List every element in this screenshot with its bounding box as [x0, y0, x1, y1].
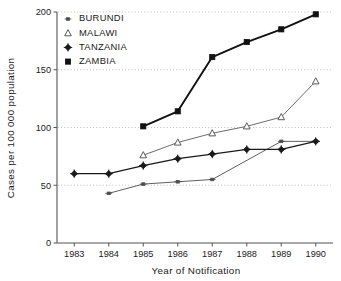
- y-axis-ticks: 050100150200: [36, 7, 57, 248]
- legend-malawi-marker-triangle: [65, 30, 72, 36]
- y-tick-label-50: 50: [41, 181, 51, 191]
- chart-figure: 050100150200 198319841985198619871988198…: [0, 0, 341, 281]
- series-tanzania-pt6-marker-diamond: [278, 146, 284, 152]
- y-tick-label-0: 0: [46, 238, 51, 248]
- series-tanzania-pt7-marker-diamond: [313, 138, 319, 144]
- series-zambia: [141, 12, 319, 129]
- series-burundi-pt1-marker-dash: [142, 183, 145, 186]
- legend-item-malawi[interactable]: MALAWI: [65, 27, 118, 38]
- series-tanzania-pt5-marker-diamond: [244, 146, 250, 152]
- line-chart: 050100150200 198319841985198619871988198…: [0, 0, 341, 281]
- series-zambia-pt5-marker-square: [313, 12, 318, 17]
- series-burundi-pt4-marker-dash: [280, 140, 283, 143]
- legend-label-malawi: MALAWI: [79, 27, 117, 38]
- y-tick-label-100: 100: [36, 123, 51, 133]
- series-line-zambia: [143, 14, 316, 126]
- y-tick-label-200: 200: [36, 7, 51, 17]
- series-tanzania-pt0-marker-diamond: [71, 171, 77, 177]
- gridlines-group: [58, 12, 333, 185]
- series-burundi-pt3-marker-dash: [211, 178, 214, 181]
- x-tick-label-1990: 1990: [306, 249, 326, 259]
- x-axis-ticks: 19831984198519861987198819891990: [64, 243, 326, 259]
- legend-label-tanzania: TANZANIA: [79, 41, 128, 52]
- x-tick-label-1987: 1987: [202, 249, 222, 259]
- x-tick-label-1984: 1984: [99, 249, 119, 259]
- series-malawi: [140, 78, 319, 158]
- series-burundi-pt2-marker-dash: [176, 180, 179, 183]
- series-zambia-pt4-marker-square: [279, 27, 284, 32]
- series-line-tanzania: [74, 141, 316, 173]
- x-tick-label-1983: 1983: [64, 249, 84, 259]
- legend-item-tanzania[interactable]: TANZANIA: [64, 41, 128, 52]
- series-zambia-pt3-marker-square: [244, 39, 249, 44]
- series-tanzania-pt1-marker-diamond: [106, 171, 112, 177]
- legend-item-burundi[interactable]: BURUNDI: [65, 12, 124, 23]
- series-line-malawi: [143, 81, 316, 155]
- series-tanzania-pt4-marker-diamond: [209, 151, 215, 157]
- x-tick-label-1989: 1989: [271, 249, 291, 259]
- y-tick-label-150: 150: [36, 65, 51, 75]
- y-axis-title: Cases per 100 000 population: [5, 58, 16, 199]
- x-tick-label-1988: 1988: [237, 249, 257, 259]
- legend-zambia-marker-square: [65, 59, 70, 64]
- legend-label-burundi: BURUNDI: [79, 12, 124, 23]
- series-zambia-pt0-marker-square: [141, 124, 146, 129]
- series-tanzania-pt3-marker-diamond: [175, 155, 181, 161]
- legend-tanzania-marker-diamond: [65, 44, 71, 50]
- x-tick-label-1985: 1985: [133, 249, 153, 259]
- series-zambia-pt2-marker-square: [210, 54, 215, 59]
- x-axis-title: Year of Notification: [152, 265, 241, 276]
- series-burundi-pt0-marker-dash: [107, 192, 110, 195]
- series-tanzania: [70, 137, 320, 178]
- data-series-group: [70, 12, 320, 195]
- legend-label-zambia: ZAMBIA: [79, 55, 116, 66]
- series-tanzania-pt2-marker-diamond: [140, 162, 146, 168]
- x-tick-label-1986: 1986: [168, 249, 188, 259]
- series-zambia-pt1-marker-square: [175, 109, 180, 114]
- legend-burundi-marker-dash: [67, 18, 70, 21]
- chart-legend: BURUNDIMALAWITANZANIAZAMBIA: [64, 12, 128, 66]
- series-malawi-pt5-marker-triangle: [312, 78, 319, 84]
- legend-item-zambia[interactable]: ZAMBIA: [65, 55, 116, 66]
